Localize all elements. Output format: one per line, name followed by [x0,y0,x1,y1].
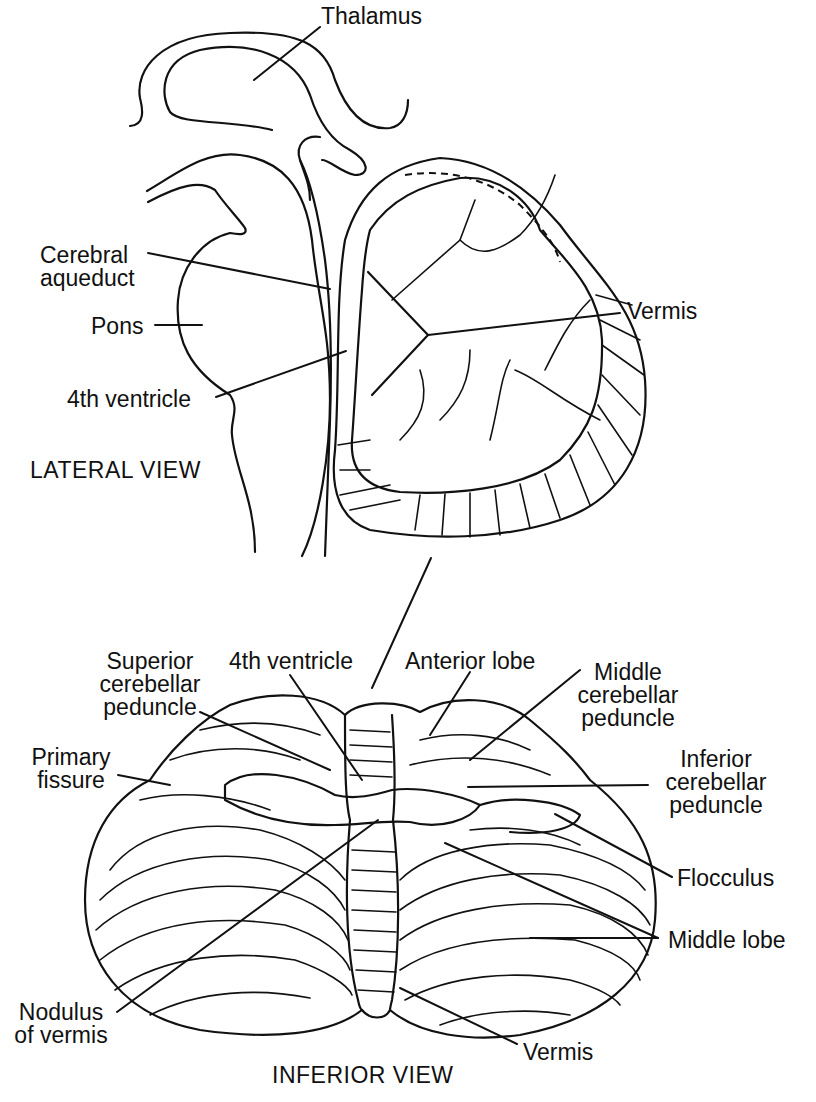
ventricle-shape [225,774,480,825]
label-anterior-lobe: Anterior lobe [405,649,535,674]
label-flocculus: Flocculus [677,866,774,891]
caption-inferior-view: INFERIOR VIEW [272,1063,454,1088]
leader-4th-ventricle-lateral [216,351,346,397]
leader-cerebral-aqueduct [148,253,330,289]
label-thalamus: Thalamus [321,4,422,29]
leader-nodulus [117,820,378,1012]
label-vermis-lateral: Vermis [627,299,697,324]
vermis-junction [368,272,428,395]
label-pons: Pons [91,314,143,339]
lateral-leader-lines [148,27,620,688]
left-hemisphere-folia [96,723,352,1015]
pons-outline [148,185,255,552]
lateral-view-drawing [130,33,646,556]
leader-vermis [428,313,620,335]
brainstem-dorsal [147,154,330,556]
vermis-column-right [390,715,398,1010]
label-4th-ventricle-inferior: 4th ventricle [229,649,353,674]
label-inferior-cp-3: peduncle [656,793,776,818]
leader-thalamus [254,27,320,80]
vermis-folia [350,730,396,992]
label-vermis-inferior: Vermis [523,1040,593,1065]
label-nodulus-2: of vermis [6,1023,116,1048]
caption-lateral-view: LATERAL VIEW [30,458,201,483]
thalamus-inner [164,47,365,175]
leader-middle-cp [470,670,580,760]
label-middle-lobe: Middle lobe [668,928,786,953]
arbor-vitae-branches [392,175,600,440]
leader-inferior-cp [468,785,648,787]
leader-flocculus [555,814,672,877]
label-middle-cp-3: peduncle [570,706,686,731]
cerebellum-outer-ring [334,158,646,537]
leader-4th-ventricle-inferior [290,675,362,780]
label-4th-ventricle-lateral: 4th ventricle [67,387,191,412]
label-superior-cp-3: peduncle [92,695,208,720]
label-cerebral-aqueduct-2: aqueduct [40,266,135,291]
right-hemisphere-folia [400,735,650,1025]
cerebellum-inner-body [352,178,602,493]
leader-anterior-lobe [430,672,470,735]
midbrain-fold [299,137,320,200]
leader-superior-cp [200,712,330,770]
leader-middle-lobe-a [445,843,658,938]
inferior-view-drawing [85,695,656,1037]
label-primary-fissure-2: fissure [24,768,118,793]
